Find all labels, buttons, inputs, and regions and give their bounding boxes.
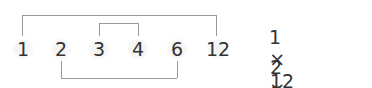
- factor-4: 4: [132, 38, 144, 60]
- bracket-1-12-right: [216, 15, 217, 36]
- bracket-2-6-bottom: [61, 78, 177, 79]
- bracket-3-4-right: [138, 23, 139, 36]
- factor-6: 6: [171, 38, 183, 60]
- bracket-2-6-left: [61, 61, 62, 78]
- factor-3: 3: [93, 38, 105, 60]
- factor-2: 2: [55, 38, 67, 60]
- bracket-3-4-top: [99, 23, 138, 24]
- factor-1: 1: [17, 38, 29, 60]
- factor-12: 12: [206, 38, 230, 60]
- bracket-1-12-top: [22, 15, 216, 16]
- eq-operand-a: 3: [269, 84, 283, 88]
- bracket-1-12-left: [22, 15, 23, 36]
- equation-3: 3 × 4 = 12: [257, 62, 295, 88]
- bracket-3-4-left: [99, 23, 100, 36]
- bracket-2-6-right: [177, 61, 178, 78]
